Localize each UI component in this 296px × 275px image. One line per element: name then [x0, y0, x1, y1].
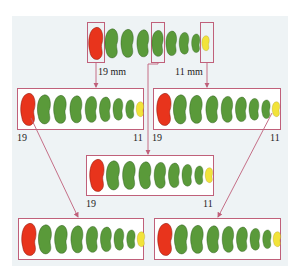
label-row2-right-large: 19: [152, 133, 162, 143]
arrow-left-large-to-bottom: [31, 118, 78, 217]
label-top-large: 19 mm: [98, 67, 126, 77]
label-top-small: 11 mm: [175, 67, 203, 77]
label-row2-right-small: 11: [270, 133, 280, 143]
label-row3-large: 19: [86, 199, 96, 209]
label-row2-left-small: 11: [133, 133, 143, 143]
arrow-right-small-to-bottom: [218, 113, 272, 217]
label-row2-left-large: 19: [17, 133, 27, 143]
label-row3-small: 11: [203, 199, 213, 209]
arrows-layer: [0, 0, 296, 275]
